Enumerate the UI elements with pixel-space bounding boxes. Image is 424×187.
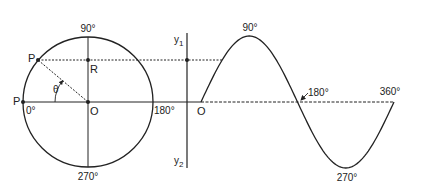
label-o-wave: O bbox=[197, 105, 206, 117]
phasor-sine-diagram: 90° 270° 0° 180° O P P R θ y1 y2 O 90° 1… bbox=[0, 0, 424, 187]
label-p-rotated: P bbox=[28, 52, 35, 64]
phasor-circle-group: 90° 270° 0° 180° O P P R θ bbox=[13, 23, 201, 182]
label-p-start: P bbox=[13, 95, 20, 107]
label-theta: θ bbox=[53, 84, 59, 95]
radius-op bbox=[38, 60, 88, 102]
label-180-wave: 180° bbox=[308, 87, 329, 98]
y-axis-group: y1 y2 bbox=[174, 33, 187, 169]
label-o-circle: O bbox=[90, 105, 99, 117]
point-o bbox=[86, 100, 90, 104]
label-y2: y2 bbox=[174, 155, 184, 169]
label-180-circle: 180° bbox=[154, 105, 175, 116]
label-r: R bbox=[90, 63, 98, 75]
label-90-circle: 90° bbox=[80, 23, 95, 34]
label-270-wave: 270° bbox=[337, 172, 358, 183]
label-y2-sub: 2 bbox=[179, 160, 184, 169]
label-270-circle: 270° bbox=[78, 171, 99, 182]
label-y1: y1 bbox=[174, 34, 184, 48]
label-y1-sub: 1 bbox=[179, 39, 184, 48]
label-90-wave: 90° bbox=[242, 22, 257, 33]
arrow-180 bbox=[301, 93, 308, 100]
label-360-wave: 360° bbox=[380, 86, 401, 97]
sine-waveform-group: O 90° 180° 270° 360° bbox=[197, 22, 400, 183]
point-p-start bbox=[21, 100, 25, 104]
label-0-circle: 0° bbox=[26, 105, 36, 116]
